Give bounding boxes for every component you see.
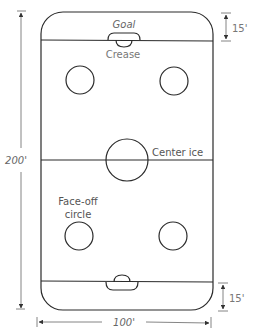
- faceoff-circle-top-left: [66, 66, 94, 94]
- goal-bottom: [106, 282, 138, 290]
- faceoff-circle-bottom-right: [159, 222, 187, 250]
- end-zone-top-label: 15': [232, 23, 247, 34]
- width-arrow-right: [146, 322, 209, 323]
- goal-line-bottom: [41, 281, 213, 282]
- goal-line-top: [41, 40, 213, 41]
- faceoff-label-line1: Face-off: [58, 196, 99, 207]
- length-label: 200': [5, 155, 27, 166]
- width-label: 100': [113, 317, 135, 328]
- end-zone-bottom-label: 15': [229, 293, 244, 304]
- faceoff-circle-bottom-left: [65, 222, 93, 250]
- rink-diagram: Goal Crease Center ice Face-off circle 2…: [0, 0, 256, 334]
- center-ice-label: Center ice: [152, 147, 203, 158]
- faceoff-label-line2: circle: [65, 209, 92, 220]
- crease-label: Crease: [106, 49, 141, 60]
- goal-top: [108, 33, 140, 40]
- goal-label: Goal: [113, 19, 136, 30]
- faceoff-circle-top-right: [160, 67, 188, 95]
